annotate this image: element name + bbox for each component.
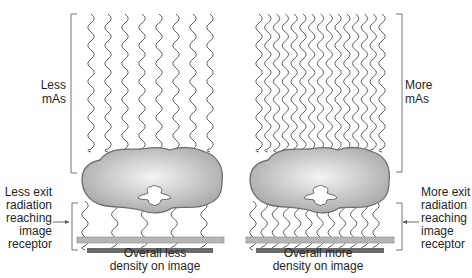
x-ray-wave <box>88 14 94 152</box>
bracket-less-mas <box>71 14 77 173</box>
more-mas-line-2: mAs <box>405 92 445 106</box>
more-caption-line-2: density on image <box>258 260 378 273</box>
more-mas-line-1: More <box>405 78 445 92</box>
more-density-caption: Overall more density on image <box>258 247 378 273</box>
x-ray-wave <box>190 14 196 152</box>
panel-less-mas <box>53 14 224 253</box>
more-exit-label: More exit radiation reaching image recep… <box>421 186 472 251</box>
x-ray-wave <box>207 14 213 152</box>
less-exit-label: Less exit radiation reaching image recep… <box>0 186 52 251</box>
x-ray-wave <box>139 14 145 152</box>
x-ray-beam-less <box>88 14 213 152</box>
x-ray-wave <box>309 14 315 152</box>
x-ray-wave <box>156 14 162 152</box>
x-ray-wave <box>105 14 111 152</box>
x-ray-wave <box>326 14 332 152</box>
x-ray-wave <box>256 14 262 152</box>
x-ray-wave <box>317 14 323 152</box>
mas-density-diagram: Less mAs More mAs Less exit radiation re… <box>0 0 472 278</box>
x-ray-wave <box>282 14 288 152</box>
less-density-caption: Overall less density on image <box>95 247 215 273</box>
more-exit-line-5: receptor <box>421 238 472 251</box>
less-mas-line-2: mAs <box>30 92 66 106</box>
x-ray-wave <box>361 14 367 152</box>
less-caption-line-2: density on image <box>95 260 215 273</box>
diagram-artwork <box>0 0 472 278</box>
less-exit-line-5: receptor <box>0 238 52 251</box>
x-ray-wave <box>344 14 350 152</box>
x-ray-wave <box>335 14 341 152</box>
bracket-more-exit <box>396 203 402 250</box>
x-ray-beam-more <box>256 14 385 152</box>
x-ray-wave <box>291 14 297 152</box>
bracket-more-mas <box>396 14 402 172</box>
panel-more-mas <box>246 14 419 253</box>
x-ray-wave <box>122 14 128 152</box>
x-ray-wave <box>265 14 271 152</box>
x-ray-wave <box>300 14 306 152</box>
image-receptor-less-top <box>77 237 224 243</box>
more-mas-label: More mAs <box>405 78 445 106</box>
x-ray-wave <box>173 14 179 152</box>
x-ray-wave <box>352 14 358 152</box>
less-mas-label: Less mAs <box>30 78 66 106</box>
image-receptor-more-top <box>246 237 394 243</box>
x-ray-wave <box>370 14 376 152</box>
x-ray-wave <box>273 14 279 152</box>
x-ray-wave <box>379 14 385 152</box>
less-mas-line-1: Less <box>30 78 66 92</box>
